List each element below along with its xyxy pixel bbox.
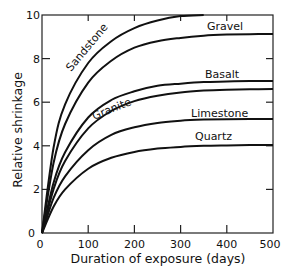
label-basalt: Basalt — [205, 68, 240, 81]
curve-sandstone — [42, 15, 204, 233]
x-tick-500: 500 — [260, 238, 281, 251]
label-limestone: Limestone — [191, 107, 248, 120]
x-tick-300: 300 — [170, 238, 191, 251]
y-tick-4: 4 — [33, 140, 40, 153]
x-tick-100: 100 — [78, 238, 99, 251]
y-axis-title: Relative shrinkage — [10, 72, 25, 188]
x-axis-title: Duration of exposure (days) — [71, 251, 246, 266]
x-tick-400: 400 — [216, 238, 237, 251]
y-tick-8: 8 — [33, 53, 40, 66]
curve-limestone — [42, 119, 273, 233]
shrinkage-chart: 0 100 200 300 400 500 Duration of exposu… — [0, 0, 296, 274]
label-gravel: Gravel — [207, 20, 243, 33]
y-tick-2: 2 — [33, 183, 40, 196]
curve-quartz — [42, 145, 273, 233]
y-tick-0: 0 — [28, 227, 35, 240]
curve-basalt — [42, 81, 273, 233]
x-tick-200: 200 — [124, 238, 145, 251]
x-tick-0: 0 — [37, 238, 44, 251]
y-tick-6: 6 — [33, 96, 40, 109]
plot-frame — [42, 15, 273, 233]
y-tick-10: 10 — [26, 9, 40, 22]
series-curves — [42, 15, 273, 233]
label-quartz: Quartz — [195, 130, 232, 143]
